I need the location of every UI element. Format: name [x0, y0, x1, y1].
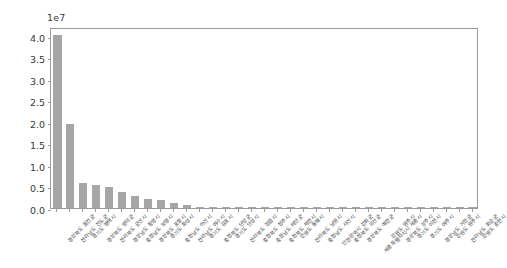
bar[interactable]: [404, 207, 412, 208]
y-axis-tick-mark: [48, 188, 51, 189]
bar[interactable]: [313, 207, 321, 208]
bar-slot[interactable]: [168, 29, 181, 208]
bar-slot[interactable]: [129, 29, 142, 208]
y-axis-tick-mark: [48, 102, 51, 103]
bar-slot[interactable]: [388, 29, 401, 208]
x-axis-tick-mark: [381, 209, 382, 212]
bar-slot[interactable]: [440, 29, 453, 208]
bar-slot[interactable]: [207, 29, 220, 208]
bar[interactable]: [170, 203, 178, 208]
y-axis-tick-mark: [48, 81, 51, 82]
bar[interactable]: [430, 207, 438, 208]
bar[interactable]: [287, 207, 295, 208]
x-axis-tick-mark: [56, 209, 57, 212]
bar[interactable]: [339, 207, 347, 208]
bar[interactable]: [417, 207, 425, 208]
bar[interactable]: [209, 207, 217, 208]
y-axis-offset-text: 1e7: [47, 12, 66, 23]
y-axis-tick-mark: [48, 38, 51, 39]
x-axis-tick-mark: [355, 209, 356, 212]
x-axis-tick-mark: [446, 209, 447, 212]
x-axis-tick-mark: [121, 209, 122, 212]
x-axis-tick-mark: [95, 209, 96, 212]
bar[interactable]: [196, 207, 204, 208]
bar-slot[interactable]: [336, 29, 349, 208]
bar[interactable]: [326, 207, 334, 208]
bar[interactable]: [131, 196, 139, 208]
bar-slot[interactable]: [116, 29, 129, 208]
x-axis-tick-mark: [134, 209, 135, 212]
bar-slot[interactable]: [310, 29, 323, 208]
bar-slot[interactable]: [284, 29, 297, 208]
bar-slot[interactable]: [362, 29, 375, 208]
bar-slot[interactable]: [90, 29, 103, 208]
bar[interactable]: [443, 207, 451, 208]
bar[interactable]: [66, 124, 74, 208]
bar[interactable]: [118, 192, 126, 208]
x-axis-tick-mark: [277, 209, 278, 212]
bar-slot[interactable]: [466, 29, 477, 208]
bar-slot[interactable]: [414, 29, 427, 208]
bar-slot[interactable]: [246, 29, 259, 208]
bar[interactable]: [144, 199, 152, 208]
bar[interactable]: [79, 183, 87, 208]
x-axis-tick-mark: [420, 209, 421, 212]
x-axis-tick-mark: [147, 209, 148, 212]
bar[interactable]: [53, 35, 61, 208]
bar[interactable]: [235, 207, 243, 208]
bar[interactable]: [92, 185, 100, 208]
x-axis-tick-mark: [407, 209, 408, 212]
bar[interactable]: [300, 207, 308, 208]
bar[interactable]: [261, 207, 269, 208]
y-axis-tick-mark: [48, 210, 51, 211]
bar[interactable]: [222, 207, 230, 208]
x-axis-tick-mark: [82, 209, 83, 212]
y-axis-tick-mark: [48, 167, 51, 168]
bar-slot[interactable]: [233, 29, 246, 208]
x-axis-tick-mark: [342, 209, 343, 212]
bar[interactable]: [157, 200, 165, 208]
bar-slot[interactable]: [181, 29, 194, 208]
bar-slot[interactable]: [453, 29, 466, 208]
bar-slot[interactable]: [401, 29, 414, 208]
bar-slot[interactable]: [220, 29, 233, 208]
x-axis-tick-mark: [108, 209, 109, 212]
x-axis-tick-mark: [368, 209, 369, 212]
bar-slot[interactable]: [155, 29, 168, 208]
x-axis-tick-mark: [290, 209, 291, 212]
bar[interactable]: [468, 207, 476, 208]
x-axis-tick-mark: [69, 209, 70, 212]
bar[interactable]: [183, 205, 191, 208]
bar[interactable]: [105, 187, 113, 208]
bar-slot[interactable]: [375, 29, 388, 208]
bar-slot[interactable]: [142, 29, 155, 208]
bar[interactable]: [456, 207, 464, 208]
bar[interactable]: [248, 207, 256, 208]
bar-slot[interactable]: [64, 29, 77, 208]
plot-area: [51, 29, 477, 208]
bar-slot[interactable]: [427, 29, 440, 208]
bar-slot[interactable]: [259, 29, 272, 208]
bar-slot[interactable]: [323, 29, 336, 208]
bar-slot[interactable]: [349, 29, 362, 208]
x-axis-tick-mark: [186, 209, 187, 212]
bar[interactable]: [378, 207, 386, 208]
bar[interactable]: [365, 207, 373, 208]
bar[interactable]: [352, 207, 360, 208]
bar-slot[interactable]: [271, 29, 284, 208]
bar-slot[interactable]: [77, 29, 90, 208]
bar[interactable]: [391, 207, 399, 208]
x-axis-tick-mark: [303, 209, 304, 212]
bar-slot[interactable]: [103, 29, 116, 208]
x-axis-tick-mark: [394, 209, 395, 212]
x-axis-tick-mark: [264, 209, 265, 212]
bar-slot[interactable]: [297, 29, 310, 208]
x-axis-tick-mark: [238, 209, 239, 212]
x-axis-tick-mark: [251, 209, 252, 212]
plot-axes: 0.00.51.01.52.02.53.03.54.0: [50, 28, 478, 209]
bar-slot[interactable]: [194, 29, 207, 208]
bar-slot[interactable]: [51, 29, 64, 208]
x-axis-tick-mark: [329, 209, 330, 212]
bar[interactable]: [274, 207, 282, 208]
